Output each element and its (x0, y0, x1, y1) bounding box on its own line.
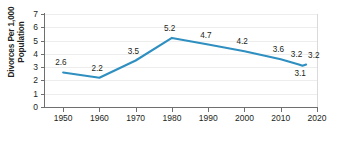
data-point-label: 2.6 (55, 59, 66, 68)
x-tick-mark (172, 108, 173, 112)
data-point-label: 5.2 (164, 25, 175, 34)
data-point-label: 4.7 (200, 32, 211, 41)
y-tick-label: 0 (20, 103, 38, 112)
x-tick-label: 1990 (191, 114, 225, 123)
divorce-rate-line-chart: Divorces Per 1,000 Population 0123456719… (0, 0, 338, 144)
x-tick-mark (136, 108, 137, 112)
x-tick-mark (317, 108, 318, 112)
y-tick-mark (41, 27, 45, 28)
data-point-label: 4.2 (236, 38, 247, 47)
data-point-label: 3.6 (273, 46, 284, 55)
data-point-label: 3.1 (294, 70, 305, 79)
y-tick-mark (41, 41, 45, 42)
y-tick-label: 4 (20, 50, 38, 59)
y-tick-mark (41, 54, 45, 55)
data-point-label: 2.2 (91, 65, 102, 74)
y-tick-mark (41, 80, 45, 81)
y-tick-mark (41, 107, 45, 108)
x-tick-label: 2010 (264, 114, 298, 123)
x-tick-label: 1980 (155, 114, 189, 123)
y-tick-label: 7 (20, 10, 38, 19)
y-tick-label: 5 (20, 37, 38, 46)
y-tick-label: 1 (20, 90, 38, 99)
y-tick-mark (41, 67, 45, 68)
x-tick-label: 2020 (300, 114, 334, 123)
data-point-label: 3.2 (308, 52, 319, 61)
x-tick-mark (208, 108, 209, 112)
y-tick-mark (41, 14, 45, 15)
x-tick-label: 1950 (46, 114, 80, 123)
x-tick-label: 2000 (227, 114, 261, 123)
y-tick-label: 3 (20, 63, 38, 72)
y-tick-label: 2 (20, 76, 38, 85)
x-tick-mark (99, 108, 100, 112)
data-point-label: 3.2 (291, 51, 302, 60)
x-tick-mark (281, 108, 282, 112)
x-tick-mark (63, 108, 64, 112)
y-tick-label: 6 (20, 23, 38, 32)
x-tick-mark (244, 108, 245, 112)
data-point-label: 3.5 (128, 48, 139, 57)
x-tick-label: 1970 (119, 114, 153, 123)
y-tick-mark (41, 94, 45, 95)
x-tick-label: 1960 (82, 114, 116, 123)
